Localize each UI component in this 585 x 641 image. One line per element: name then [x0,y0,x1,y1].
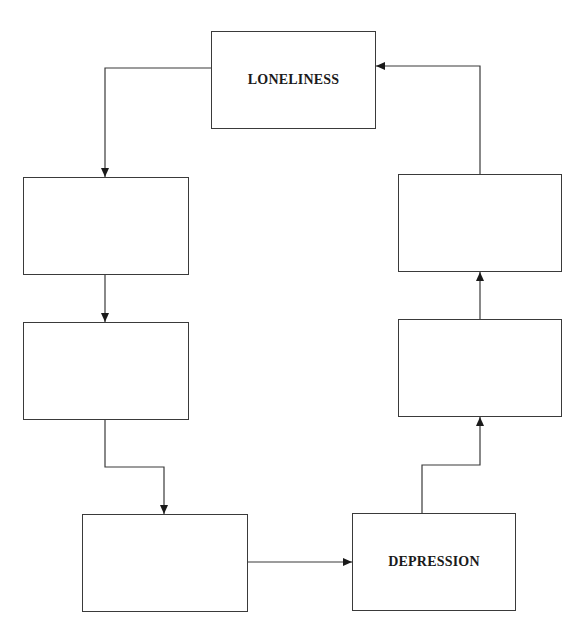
edge-right-1-to-loneliness [376,66,480,174]
node-depression: DEPRESSION [352,513,516,611]
node-left-2 [23,322,189,420]
node-right-2 [398,319,562,417]
node-bottom-left [82,514,248,612]
node-right-1 [398,174,562,272]
edge-depression-to-right-2 [422,417,480,513]
edge-loneliness-to-left-1 [105,68,211,177]
node-label: DEPRESSION [388,554,479,570]
edge-left-2-to-bottom-left [105,420,164,514]
node-left-1 [23,177,189,275]
node-loneliness: LONELINESS [211,31,376,129]
node-label: LONELINESS [248,72,339,88]
